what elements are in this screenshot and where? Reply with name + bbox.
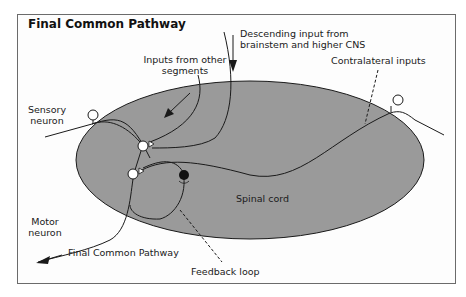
sensory-label-line2: neuron: [22, 115, 72, 126]
sensory-label-line1: Sensory: [22, 104, 72, 115]
other-segments-label-line2: segments: [137, 65, 233, 76]
sensory-neuron-body-icon: [88, 110, 98, 120]
other-segments-label: Inputs from other segments: [137, 54, 233, 76]
motor-neuron-label: Motor neuron: [22, 216, 68, 238]
motor-label-line2: neuron: [22, 227, 68, 238]
spinal-cord-label: Spinal cord: [236, 193, 289, 204]
inhibitory-neuron-icon: [179, 170, 189, 180]
descending-label: Descending input from brainstem and high…: [240, 28, 365, 50]
other-segments-label-line1: Inputs from other: [137, 54, 233, 65]
spinal-cord-shape: [76, 81, 424, 239]
motor-neuron-body-icon: [128, 169, 138, 179]
figure-title: Final Common Pathway: [28, 17, 186, 31]
final-common-pathway-label: Final Common Pathway: [68, 247, 179, 258]
sensory-neuron-label: Sensory neuron: [22, 104, 72, 126]
contralateral-label: Contralateral inputs: [331, 55, 426, 66]
interneuron-upper-icon: [138, 141, 148, 151]
feedback-loop-label: Feedback loop: [191, 266, 260, 277]
final-pathway-arrow-head-icon: [36, 256, 50, 264]
descending-label-line1: Descending input from: [240, 28, 365, 39]
motor-label-line1: Motor: [22, 216, 68, 227]
contralateral-neuron-body-icon: [393, 95, 403, 105]
descending-label-line2: brainstem and higher CNS: [240, 39, 365, 50]
